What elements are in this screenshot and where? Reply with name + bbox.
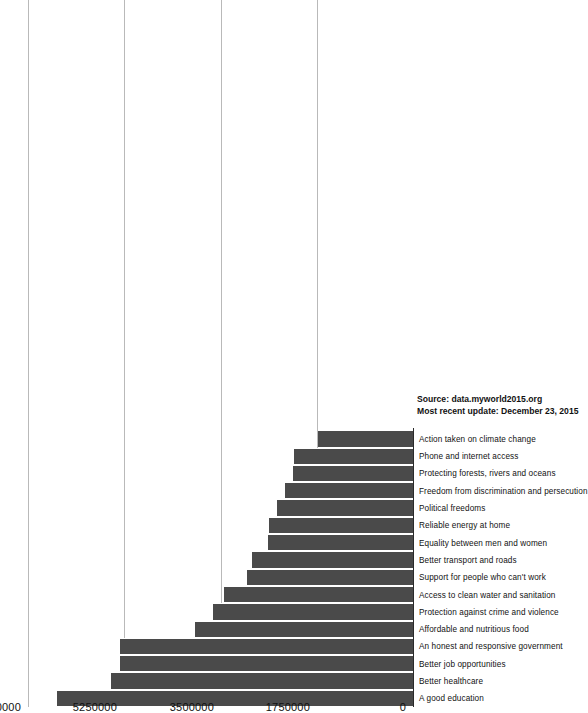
bar-cell[interactable] — [28, 448, 413, 465]
bar-cell[interactable] — [28, 551, 413, 568]
bar-cell[interactable] — [28, 499, 413, 516]
source-note: Source: data.myworld2015.org Most recent… — [417, 394, 578, 417]
bar[interactable] — [252, 551, 413, 568]
bar[interactable] — [224, 586, 413, 603]
bar[interactable] — [120, 655, 413, 672]
category-label-text: Support for people who can't work — [419, 573, 546, 582]
category-label-text: Reliable energy at home — [419, 521, 510, 530]
bar-cell[interactable] — [28, 430, 413, 447]
bar-cell[interactable] — [28, 621, 413, 638]
category-label-text: Freedom from discrimination and persecut… — [419, 486, 588, 495]
bar-series — [28, 430, 413, 707]
bar-cell[interactable] — [28, 586, 413, 603]
bar[interactable] — [318, 430, 413, 447]
category-label-text: Action taken on climate change — [419, 434, 536, 443]
bar[interactable] — [269, 517, 413, 534]
update-line: Most recent update: December 23, 2015 — [417, 406, 578, 418]
bar[interactable] — [111, 672, 414, 689]
bar[interactable] — [120, 638, 413, 655]
bar-cell[interactable] — [28, 603, 413, 620]
y-axis-tick-label: 5250000 — [73, 701, 124, 713]
source-line: Source: data.myworld2015.org — [417, 394, 578, 406]
category-label-text: Better transport and roads — [419, 555, 517, 564]
bar-cell[interactable] — [28, 534, 413, 551]
axis-baseline — [413, 428, 414, 707]
category-label-text: Political freedoms — [419, 504, 485, 513]
category-label-text: A good education — [419, 694, 484, 703]
y-axis-tick-label: 0 — [400, 701, 413, 713]
plot-area: 01750000350000052500007000000 — [28, 430, 413, 707]
bar-cell[interactable] — [28, 638, 413, 655]
bar[interactable] — [247, 569, 413, 586]
bar[interactable] — [277, 499, 413, 516]
bar-cell[interactable] — [28, 672, 413, 689]
bar[interactable] — [285, 482, 413, 499]
category-label-text: Protection against crime and violence — [419, 607, 559, 616]
category-label-text: Equality between men and women — [419, 538, 547, 547]
y-axis-tick-label: 7000000 — [0, 701, 28, 713]
y-axis-tick-label: 1750000 — [266, 701, 317, 713]
bar-cell[interactable] — [28, 655, 413, 672]
category-label-text: Better healthcare — [419, 677, 483, 686]
bar-cell[interactable] — [28, 517, 413, 534]
bar[interactable] — [294, 448, 413, 465]
bar-cell[interactable] — [28, 482, 413, 499]
bar[interactable] — [268, 534, 413, 551]
category-label-text: An honest and responsive government — [419, 642, 563, 651]
bar-cell[interactable] — [28, 569, 413, 586]
category-label-text: Access to clean water and sanitation — [419, 590, 556, 599]
category-label-text: Affordable and nutritious food — [419, 625, 529, 634]
category-label-text: Better job opportunities — [419, 659, 506, 668]
y-axis-tick-label: 3500000 — [169, 701, 220, 713]
bar[interactable] — [195, 621, 413, 638]
category-label-text: Protecting forests, rivers and oceans — [419, 469, 556, 478]
bar[interactable] — [293, 465, 413, 482]
category-label-text: Phone and internet access — [419, 452, 518, 461]
bar-cell[interactable] — [28, 465, 413, 482]
bar[interactable] — [213, 603, 413, 620]
